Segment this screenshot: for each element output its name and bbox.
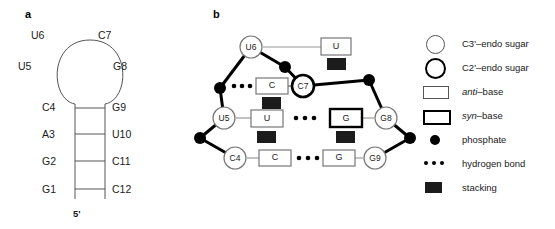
legend-item-anti-base: anti–base: [420, 80, 555, 104]
stacking-square: [327, 58, 346, 70]
sugar-circle-g8: [375, 107, 397, 129]
phosphate-dot: [194, 132, 206, 144]
legend-label-phosphate: phosphate: [462, 135, 506, 145]
legend-item-phosphate: phosphate: [420, 128, 555, 152]
thin-box-icon: [420, 80, 462, 104]
stacking-square: [336, 131, 355, 143]
sugar-circle-c7: [292, 75, 314, 97]
phosphate-dot: [214, 82, 226, 94]
phosphate-dot: [404, 132, 416, 144]
dotted-line-icon: [420, 152, 462, 176]
legend: C3'–endo sugar C2'–endo sugar anti–base …: [420, 32, 555, 200]
base-box-g-anti: [323, 150, 355, 166]
legend-label-syn-base: syn–base: [462, 111, 503, 121]
thick-circle-icon: [420, 56, 462, 80]
legend-label-c2-endo-sugar: C2'–endo sugar: [462, 63, 529, 73]
base-box-u-anti: [321, 38, 351, 55]
legend-label-c3-endo-sugar: C3'–endo sugar: [462, 39, 529, 49]
legend-label-stacking: stacking: [462, 183, 497, 193]
legend-item-stacking: stacking: [420, 176, 555, 200]
figure-root: a U6 C7 U5 G8 C4 A3 G2 G1 G9 U10 C11 C12…: [0, 0, 555, 229]
phosphate-dot: [363, 74, 375, 86]
base-box-c-anti: [256, 78, 288, 94]
legend-item-hydrogen-bond: hydrogen bond: [420, 152, 555, 176]
hydrogen-bond-group: [232, 84, 253, 89]
hydrogen-bond-group: [297, 156, 320, 161]
filled-dot-icon: [420, 128, 462, 152]
stacking-square: [262, 97, 281, 109]
legend-label-hydrogen-bond: hydrogen bond: [462, 159, 525, 169]
base-box-c-anti-2: [259, 150, 291, 166]
legend-item-c2-endo-sugar: C2'–endo sugar: [420, 56, 555, 80]
sugar-circle-g9: [364, 147, 386, 169]
stacking-square: [257, 131, 276, 143]
legend-label-anti-base: anti–base: [462, 87, 503, 97]
base-box-u-anti-2: [251, 110, 283, 127]
base-box-g-syn: [330, 109, 362, 127]
sugar-circle-u6: [240, 36, 262, 58]
filled-square-icon: [420, 176, 462, 200]
thin-circle-icon: [420, 32, 462, 56]
legend-item-syn-base: syn–base: [420, 104, 555, 128]
thick-box-icon: [420, 104, 462, 128]
sugar-circle-c4: [224, 147, 246, 169]
legend-item-c3-endo-sugar: C3'–endo sugar: [420, 32, 555, 56]
hydrogen-bond-group: [294, 116, 317, 121]
sugar-circle-u5: [213, 107, 235, 129]
phosphate-dot: [279, 61, 291, 73]
